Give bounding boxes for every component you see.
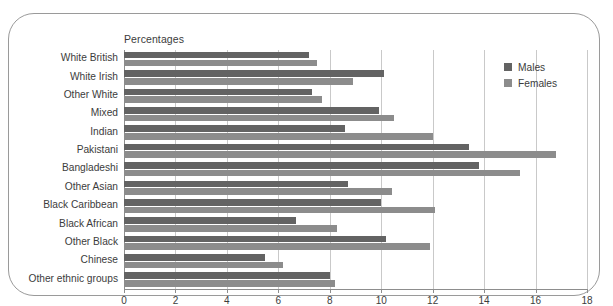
bar-males — [124, 181, 348, 188]
gridline-18 — [587, 50, 588, 289]
category-label: Other Asian — [12, 181, 118, 192]
chart-row: Mixed — [124, 105, 587, 123]
bar-females — [124, 188, 392, 195]
bar-females — [124, 115, 394, 122]
chart-row: Black African — [124, 215, 587, 233]
category-label: Black African — [12, 218, 118, 229]
x-tick-label-16: 16 — [530, 295, 541, 306]
x-tick-label-0: 0 — [121, 295, 127, 306]
chart-frame: Percentages White BritishWhite IrishOthe… — [8, 13, 600, 296]
category-label: Black Caribbean — [12, 199, 118, 210]
chart-row: Other ethnic groups — [124, 271, 587, 289]
legend-item-males: Males — [504, 60, 557, 74]
bar-males — [124, 89, 312, 96]
category-label: Other Black — [12, 236, 118, 247]
legend-item-females: Females — [504, 76, 557, 90]
category-label: Pakistani — [12, 144, 118, 155]
x-axis: 024681012141618 — [124, 289, 587, 290]
x-tick-18 — [587, 289, 588, 293]
chart-legend: Males Females — [504, 60, 557, 92]
bar-males — [124, 125, 345, 132]
bar-males — [124, 107, 379, 114]
legend-swatch-males-icon — [504, 63, 512, 71]
x-tick-label-8: 8 — [327, 295, 333, 306]
bar-females — [124, 78, 353, 85]
x-tick-2 — [175, 289, 176, 293]
category-label: White Irish — [12, 71, 118, 82]
x-tick-10 — [381, 289, 382, 293]
bar-males — [124, 272, 330, 279]
bar-females — [124, 225, 337, 232]
chart-row: Other Black — [124, 234, 587, 252]
legend-swatch-females-icon — [504, 79, 512, 87]
legend-label-females: Females — [518, 78, 557, 89]
bar-females — [124, 151, 556, 158]
x-tick-12 — [433, 289, 434, 293]
x-tick-4 — [227, 289, 228, 293]
x-tick-0 — [124, 289, 125, 293]
chart-row: Chinese — [124, 252, 587, 270]
category-label: White British — [12, 52, 118, 63]
bar-males — [124, 70, 384, 77]
x-tick-16 — [536, 289, 537, 293]
bar-males — [124, 217, 296, 224]
chart-row: Indian — [124, 124, 587, 142]
bar-females — [124, 280, 335, 287]
bar-females — [124, 243, 430, 250]
x-tick-label-18: 18 — [581, 295, 592, 306]
bar-males — [124, 254, 265, 261]
bar-males — [124, 236, 386, 243]
category-label: Mixed — [12, 107, 118, 118]
x-tick-8 — [330, 289, 331, 293]
bar-females — [124, 133, 433, 140]
chart-row: Other Asian — [124, 179, 587, 197]
x-tick-label-12: 12 — [427, 295, 438, 306]
x-tick-label-14: 14 — [479, 295, 490, 306]
x-tick-6 — [278, 289, 279, 293]
chart-row: Pakistani — [124, 142, 587, 160]
bar-males — [124, 199, 381, 206]
bar-males — [124, 162, 479, 169]
category-label: Chinese — [12, 254, 118, 265]
bar-females — [124, 60, 317, 67]
x-tick-label-2: 2 — [173, 295, 179, 306]
x-tick-label-10: 10 — [376, 295, 387, 306]
bar-females — [124, 207, 435, 214]
bar-females — [124, 262, 283, 269]
bar-females — [124, 96, 322, 103]
category-label: Other ethnic groups — [12, 273, 118, 284]
bar-males — [124, 144, 469, 151]
category-label: Bangladeshi — [12, 162, 118, 173]
axis-note-percentages: Percentages — [124, 33, 184, 45]
bar-males — [124, 52, 309, 59]
bar-females — [124, 170, 520, 177]
category-label: Other White — [12, 89, 118, 100]
chart-row: Black Caribbean — [124, 197, 587, 215]
legend-label-males: Males — [518, 62, 545, 73]
x-tick-label-4: 4 — [224, 295, 230, 306]
x-tick-label-6: 6 — [276, 295, 282, 306]
category-label: Indian — [12, 126, 118, 137]
x-tick-14 — [484, 289, 485, 293]
chart-row: Bangladeshi — [124, 160, 587, 178]
